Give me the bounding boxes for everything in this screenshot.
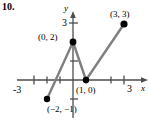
x-axis xyxy=(17,77,148,83)
data-point-marker xyxy=(44,96,50,102)
x-tick-label-3: 3 xyxy=(127,84,132,94)
point-label-0-2: (0, 2) xyxy=(38,33,58,42)
x-tick-label-neg3: -3 xyxy=(13,85,21,95)
point-label-neg2-neg1: (−2, −1) xyxy=(47,105,77,114)
y-axis xyxy=(70,11,76,118)
data-point-marker xyxy=(70,39,77,46)
x-axis-label: x xyxy=(141,84,145,93)
y-tick-label-3: 3 xyxy=(62,18,67,28)
data-point-marker xyxy=(120,20,127,27)
point-label-1-0: (1, 0) xyxy=(76,86,96,95)
point-label-3-3: (3, 3) xyxy=(110,10,130,19)
data-point-marker xyxy=(83,77,89,83)
y-axis-label: y xyxy=(64,4,68,13)
